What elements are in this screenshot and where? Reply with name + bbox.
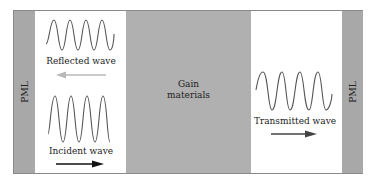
left-pml-label: PML [20,81,30,102]
right-pml-region: PML [342,11,363,173]
incident-arrow-icon [56,160,104,168]
gain-label-line1: Gain [126,79,251,90]
gain-label: Gain materials [126,79,251,101]
right-pml-label: PML [348,81,358,102]
gain-label-line2: materials [126,90,251,101]
reflected-wave-icon [46,18,116,54]
reflected-wave-label: Reflected wave [46,56,116,66]
transmitted-wave-icon [256,70,336,112]
reflected-arrow-icon [56,71,106,79]
transmitted-wave-label: Transmitted wave [253,116,337,126]
incident-wave-label: Incident wave [46,146,116,156]
left-pml-region: PML [14,11,35,173]
incident-wave-icon [48,94,112,144]
transmitted-arrow-icon [271,130,317,138]
gain-materials-region: Gain materials [126,11,251,173]
